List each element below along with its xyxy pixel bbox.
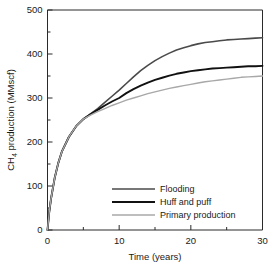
y-tick-label: 500 bbox=[27, 4, 43, 15]
x-tick-label: 20 bbox=[186, 235, 197, 246]
legend-label: Flooding bbox=[160, 184, 195, 194]
y-tick-label: 200 bbox=[27, 136, 43, 147]
series-line-primary-production bbox=[48, 76, 263, 230]
y-axis-title-prefix: CH bbox=[5, 157, 16, 171]
x-tick-label: 10 bbox=[114, 235, 125, 246]
y-tick-label: 100 bbox=[27, 180, 43, 191]
legend-label: Huff and puff bbox=[160, 197, 212, 207]
chart-figure: 0100200300400500 0102030 FloodingHuff an… bbox=[0, 0, 269, 265]
y-axis-title: CH4 production (MMscf) bbox=[5, 69, 18, 171]
x-tick-label: 0 bbox=[45, 235, 50, 246]
x-tick-marks bbox=[48, 225, 263, 230]
legend-label: Primary production bbox=[160, 210, 236, 220]
chart-legend: FloodingHuff and puffPrimary production bbox=[112, 184, 236, 220]
y-tick-label: 300 bbox=[27, 92, 43, 103]
series-line-huff-and-puff bbox=[48, 66, 263, 230]
axes-frame bbox=[48, 10, 263, 230]
y-axis-title-suffix: production (MMscf) bbox=[5, 69, 16, 153]
x-tick-labels: 0102030 bbox=[45, 235, 268, 246]
chart-canvas: 0100200300400500 0102030 FloodingHuff an… bbox=[0, 0, 269, 265]
y-tick-label: 400 bbox=[27, 48, 43, 59]
y-tick-label: 0 bbox=[37, 224, 42, 235]
x-tick-label: 30 bbox=[257, 235, 268, 246]
x-axis-title: Time (years) bbox=[129, 251, 182, 262]
y-tick-labels: 0100200300400500 bbox=[27, 4, 43, 235]
